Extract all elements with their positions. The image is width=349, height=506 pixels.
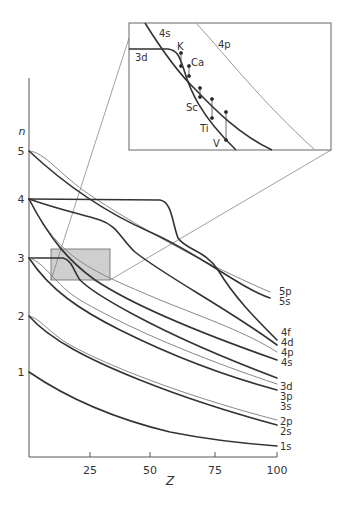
y-tick-label-1: 1	[18, 366, 25, 379]
label-2s: 2s	[280, 426, 292, 437]
curve-2p	[29, 316, 277, 420]
inset-panel: 4s 4p 3d K Ca Sc Ti V	[129, 23, 331, 150]
inset-label-Ti: Ti	[199, 123, 209, 134]
x-tick-label-50: 50	[143, 464, 157, 477]
y-tick-label-2: 2	[18, 310, 25, 323]
curve-1s	[29, 372, 277, 446]
y-tick-label-5: 5	[18, 145, 25, 158]
inset-label-Ca: Ca	[191, 57, 204, 68]
curves	[29, 151, 277, 446]
inset-label-3d: 3d	[135, 52, 148, 63]
y-tick-label-4: 4	[18, 193, 25, 206]
label-1s: 1s	[280, 441, 292, 452]
y-axis-label: n	[19, 125, 26, 138]
inset-label-V: V	[213, 138, 220, 149]
inset-label-4s: 4s	[159, 28, 171, 39]
label-3s: 3s	[280, 401, 292, 412]
inset-label-K: K	[177, 41, 184, 52]
label-4s: 4s	[281, 357, 293, 368]
x-tick-label-75: 75	[208, 464, 222, 477]
label-5s: 5s	[279, 296, 291, 307]
inset-connector-right	[110, 150, 331, 280]
x-axis-label: Z	[165, 474, 175, 488]
orbital-energy-chart: 25 50 75 100 Z n 5 4 3 2 1	[0, 0, 349, 506]
inset-connector-left	[51, 38, 129, 280]
inset-label-Sc: Sc	[186, 102, 198, 113]
inset-label-4p: 4p	[218, 39, 231, 50]
x-tick-label-25: 25	[83, 464, 97, 477]
y-tick-label-3: 3	[18, 252, 25, 265]
x-tick-label-100: 100	[267, 464, 288, 477]
